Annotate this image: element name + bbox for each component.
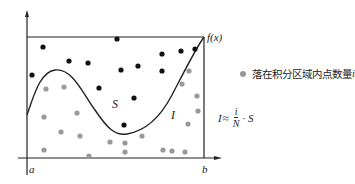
inside-point [41,114,46,119]
inside-point [139,133,144,138]
curve-label: f(x) [207,32,222,43]
formula-lhs: I [218,112,222,124]
legend-text: 落在积分区域内点数量 [252,66,352,81]
axis-label-b: b [202,164,208,175]
inside-point [122,149,127,154]
inside-point [182,149,187,154]
outside-point [114,36,119,41]
inside-point [107,139,112,144]
inside-point [61,84,66,89]
outside-point [29,72,34,77]
inside-point [194,93,199,98]
outside-point [192,46,197,51]
inside-point [179,81,184,86]
outside-point [159,51,164,56]
outside-point [178,48,183,53]
outside-point [135,63,140,68]
outside-point [40,44,45,49]
formula: I ≈ i N · S [218,106,253,129]
outside-point [131,95,136,100]
inside-point [86,153,91,158]
inside-point [160,147,165,152]
formula-rest: · S [242,112,253,124]
formula-den: N [233,118,240,129]
inside-point [58,129,63,134]
outside-point [121,122,126,127]
function-curve [27,37,204,134]
formula-fraction: i N [233,106,240,129]
inside-point [195,108,200,113]
outside-point [96,85,101,90]
outside-point [118,67,123,72]
x-axis-arrow-icon [214,156,222,160]
legend: 落在积分区域内点数量i [240,66,355,81]
outside-point [85,60,90,65]
y-axis-arrow-icon [25,10,29,17]
inside-point [77,133,82,138]
gray-dot-icon [240,71,246,77]
formula-num: i [234,106,239,118]
inside-points [41,68,200,158]
region-label-i: I [171,109,175,121]
formula-op: ≈ [223,112,229,124]
outside-point [66,58,71,63]
inside-point [185,121,190,126]
inside-point [41,147,46,152]
inside-point [186,68,191,73]
inside-point [169,148,174,153]
axis-label-a: a [29,164,35,175]
inside-point [74,110,79,115]
region-label-s: S [112,98,118,110]
inside-point [122,140,127,145]
legend-var: i [352,68,355,79]
inside-point [43,86,48,91]
outside-point [159,68,164,73]
